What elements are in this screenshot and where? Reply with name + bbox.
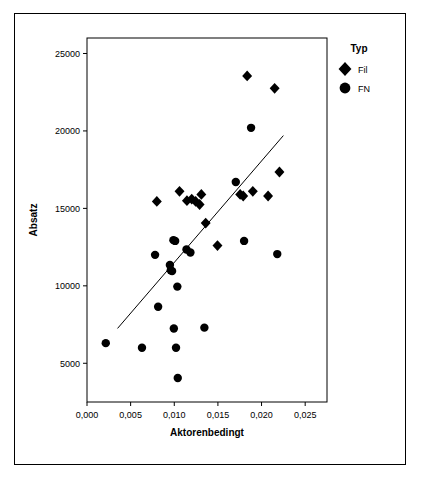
y-tick-label: 25000 [55, 49, 80, 59]
y-tick-label: 20000 [55, 126, 80, 136]
data-point-fn [154, 303, 162, 311]
legend-title: Typ [350, 43, 367, 54]
chart-frame: 500010000150002000025000 0,0000,0050,010… [14, 13, 406, 465]
x-tick-label: 0,010 [163, 410, 186, 420]
data-point-fn [151, 251, 159, 259]
x-tick-label: 0,015 [207, 410, 230, 420]
y-axis-ticks: 500010000150002000025000 [55, 49, 87, 369]
x-tick-label: 0,025 [294, 410, 317, 420]
y-tick-label: 5000 [60, 359, 80, 369]
scatter-plot: 500010000150002000025000 0,0000,0050,010… [15, 14, 405, 464]
data-point-fn [168, 267, 176, 275]
legend-entries: FilFN [339, 62, 370, 94]
legend-marker-circle-icon [340, 83, 351, 94]
data-point-fn [200, 323, 208, 331]
data-point-fn [138, 344, 146, 352]
y-axis-title: Absatz [28, 204, 39, 237]
x-axis-title: Aktorenbedingt [170, 427, 245, 438]
x-tick-label: 0,000 [76, 410, 99, 420]
legend-marker-diamond-icon [339, 62, 352, 76]
legend-entry-label: FN [358, 84, 370, 94]
data-point-fn [240, 237, 248, 245]
x-tick-label: 0,005 [119, 410, 142, 420]
data-point-fn [170, 324, 178, 332]
y-tick-label: 10000 [55, 281, 80, 291]
data-point-fn [172, 344, 180, 352]
y-tick-label: 15000 [55, 204, 80, 214]
data-point-fn [247, 124, 255, 132]
data-point-fn [174, 374, 182, 382]
x-tick-label: 0,020 [250, 410, 273, 420]
data-point-fn [171, 237, 179, 245]
data-point-fn [232, 178, 240, 186]
data-point-fn [186, 248, 194, 256]
data-point-fn [173, 282, 181, 290]
data-point-fn [102, 339, 110, 347]
x-axis-ticks: 0,0000,0050,0100,0150,0200,025 [76, 402, 317, 420]
legend: Typ FilFN [339, 43, 370, 94]
legend-entry-label: Fil [358, 65, 368, 75]
data-point-fn [273, 250, 281, 258]
